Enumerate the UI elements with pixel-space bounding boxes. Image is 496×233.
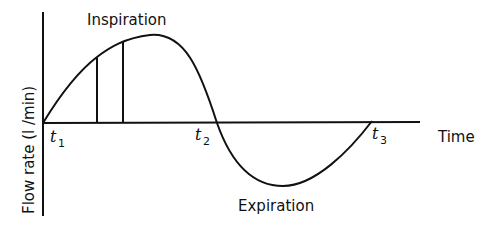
svg-text:2: 2 [203, 135, 210, 148]
x-axis-label: Time [437, 128, 475, 146]
svg-text:t: t [195, 125, 202, 144]
x-axis-baseline [43, 122, 420, 123]
expiration-label: Expiration [238, 197, 314, 215]
svg-text:1: 1 [58, 137, 65, 150]
svg-text:t: t [372, 124, 379, 143]
inspiration-label: Inspiration [87, 11, 167, 29]
svg-text:3: 3 [380, 134, 387, 147]
svg-text:t: t [50, 127, 57, 146]
t2-label: t 2 [195, 125, 210, 148]
t3-label: t 3 [372, 124, 387, 147]
flow-rate-diagram: Inspiration Expiration Time Flow rate (l… [0, 0, 496, 233]
t1-label: t 1 [50, 127, 65, 150]
flow-curve [43, 35, 372, 186]
y-axis-label: Flow rate (l /min) [20, 86, 38, 214]
